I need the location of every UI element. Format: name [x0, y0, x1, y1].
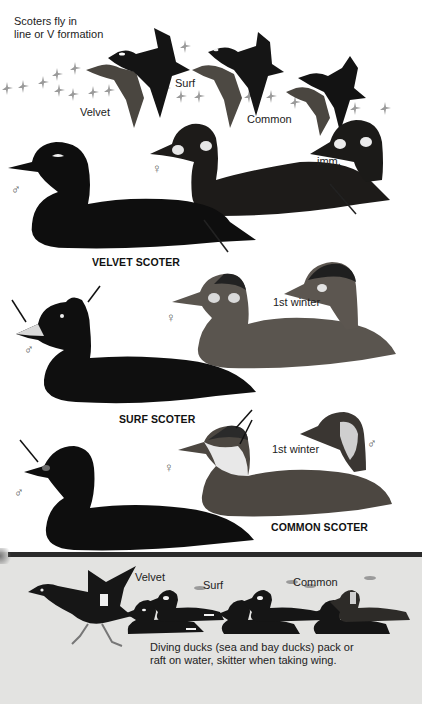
velvet-female-symbol: ♀ [152, 162, 162, 175]
surf-female-symbol: ♀ [166, 311, 176, 324]
common-scoter-title: COMMON SCOTER [271, 521, 368, 533]
velvet-scoter-male-illustration [8, 140, 258, 260]
flight-label-velvet: Velvet [80, 106, 110, 119]
common-male-symbol: ♂ [14, 486, 24, 499]
velvet-immature-label: imm. [317, 155, 341, 168]
flying-surf-scoters-illustration [190, 30, 280, 120]
behavior-line-1: Diving ducks (sea and bay ducks) pack or [150, 641, 354, 654]
panel-divider-bar [8, 552, 422, 557]
surf-scoter-male-illustration [16, 296, 266, 416]
surf-1st-winter-label: 1st winter [273, 296, 320, 309]
common-scoter-male-illustration [24, 444, 264, 564]
common-1st-winter-male-symbol: ♂ [367, 437, 377, 450]
behavior-line-2: raft on water, skitter when taking wing. [150, 654, 354, 667]
surf-male-symbol: ♂ [24, 343, 34, 356]
velvet-scoter-immature-head-illustration [310, 118, 390, 188]
velvet-male-symbol: ♂ [11, 183, 21, 196]
skittering-scoter-illustration [28, 566, 138, 676]
panel-label-surf: Surf [203, 579, 223, 592]
common-female-symbol: ♀ [164, 461, 174, 474]
common-1st-winter-label: 1st winter [272, 443, 319, 456]
velvet-scoter-title: VELVET SCOTER [92, 256, 180, 268]
flight-label-surf: Surf [175, 77, 195, 90]
panel-label-common: Common [293, 576, 338, 589]
panel-label-velvet: Velvet [135, 571, 165, 584]
page-edge-shadow [0, 548, 14, 564]
behavior-description: Diving ducks (sea and bay ducks) pack or… [150, 641, 354, 667]
